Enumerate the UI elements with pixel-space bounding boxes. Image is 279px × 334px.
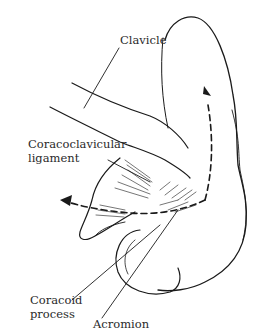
humeral-head-inner <box>125 240 135 274</box>
scapula-right-edge <box>232 110 246 240</box>
shoulder-diagram: Clavicle Coracoclavicular ligament Corac… <box>0 0 279 334</box>
coracoclavicular-label-2: ligament <box>28 152 79 165</box>
acromion-label: Acromion <box>93 318 149 331</box>
scapula-outline <box>158 17 246 291</box>
anatomy-drawing <box>0 0 279 334</box>
coracoid-label-1: Coracoid <box>30 294 82 307</box>
upward-arrowhead <box>203 86 211 96</box>
coracoid-label-2: process <box>30 308 75 321</box>
coracoid-leader <box>72 225 160 300</box>
clavicle-label: Clavicle <box>120 34 166 47</box>
acromion-leader <box>102 210 178 318</box>
scapula-inner-edge <box>162 38 168 128</box>
coracoclavicular-label-1: Coracoclavicular <box>28 138 126 151</box>
upward-arrow-path <box>205 105 212 200</box>
leftward-arrowhead <box>60 195 72 206</box>
clavicle-leader <box>84 48 119 108</box>
